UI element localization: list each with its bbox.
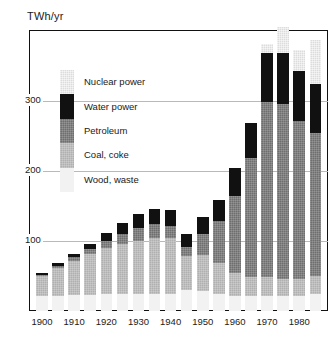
bar-1965 — [245, 123, 257, 311]
bar-segment-wood — [213, 294, 225, 311]
bar-segment-wood — [165, 294, 177, 311]
x-tick-label-1910: 1910 — [64, 316, 85, 327]
bar-segment-coal — [117, 244, 129, 294]
x-tick-label-1950: 1950 — [192, 316, 213, 327]
bar-segment-coal — [245, 277, 257, 295]
bar-segment-wood — [52, 296, 64, 311]
bar-segment-petroleum — [197, 234, 209, 255]
bar-1940 — [165, 210, 177, 311]
bar-segment-petroleum — [181, 247, 193, 257]
bar-segment-petroleum — [133, 228, 145, 241]
bar-segment-petroleum — [310, 133, 322, 277]
legend-swatch-nuclear — [60, 70, 74, 94]
bar-segment-water — [117, 223, 129, 234]
bar-segment-coal — [36, 276, 48, 296]
bar-1945 — [181, 234, 193, 311]
bar-segment-coal — [68, 261, 80, 295]
legend-swatch-petroleum — [60, 119, 74, 143]
bar-segment-water — [261, 53, 273, 102]
x-tick-label-1920: 1920 — [96, 316, 117, 327]
bar-segment-wood — [245, 296, 257, 311]
legend-label-water: Water power — [84, 101, 138, 112]
bar-segment-wood — [261, 296, 273, 311]
x-tick-label-1940: 1940 — [160, 316, 181, 327]
bar-segment-petroleum — [261, 102, 273, 277]
bar-1985 — [310, 40, 322, 311]
bar-segment-petroleum — [117, 234, 129, 244]
bar-segment-coal — [310, 276, 322, 294]
x-tick-label-1960: 1960 — [224, 316, 245, 327]
bar-segment-coal — [293, 279, 305, 296]
legend-swatch-water — [60, 94, 74, 118]
legend: Nuclear powerWater powerPetroleumCoal, c… — [60, 70, 210, 210]
bar-1915 — [84, 244, 96, 311]
bar-segment-wood — [181, 290, 193, 311]
bar-segment-nuclear — [261, 44, 273, 54]
bar-1935 — [149, 209, 161, 311]
bar-segment-nuclear — [293, 50, 305, 71]
bar-segment-wood — [101, 294, 113, 311]
bar-segment-water — [101, 233, 113, 241]
legend-swatch-wood — [60, 168, 74, 192]
bar-1950 — [197, 217, 209, 311]
energy-consumption-chart: TWh/yr 100200300 19001910192019301940195… — [0, 0, 335, 344]
bar-segment-coal — [277, 279, 289, 296]
bar-segment-coal — [101, 248, 113, 294]
bar-segment-wood — [229, 296, 241, 311]
bar-segment-wood — [149, 294, 161, 311]
bar-segment-coal — [261, 277, 273, 295]
x-tick-label-1980: 1980 — [289, 316, 310, 327]
bar-1970 — [261, 44, 273, 311]
bar-segment-nuclear — [277, 27, 289, 54]
bar-segment-water — [229, 168, 241, 196]
bar-segment-water — [149, 209, 161, 224]
bar-1955 — [213, 200, 225, 311]
bar-segment-wood — [197, 291, 209, 311]
bar-segment-coal — [149, 238, 161, 294]
bar-segment-petroleum — [229, 196, 241, 273]
bar-segment-coal — [165, 238, 177, 294]
bar-1905 — [52, 263, 64, 311]
bar-segment-water — [165, 210, 177, 225]
legend-label-petroleum: Petroleum — [84, 125, 127, 136]
bar-segment-water — [277, 53, 289, 103]
bar-segment-petroleum — [293, 121, 305, 279]
bar-segment-coal — [84, 254, 96, 295]
bar-segment-coal — [181, 256, 193, 290]
bar-segment-water — [197, 217, 209, 235]
bar-segment-wood — [277, 296, 289, 311]
bar-segment-coal — [213, 263, 225, 294]
bar-segment-petroleum — [245, 158, 257, 277]
legend-label-coal: Coal, coke — [84, 149, 129, 160]
bar-segment-petroleum — [165, 226, 177, 239]
bar-1960 — [229, 168, 241, 311]
bar-1910 — [68, 254, 80, 311]
bar-1980 — [293, 50, 305, 311]
bar-segment-wood — [133, 294, 145, 311]
bar-segment-coal — [229, 273, 241, 295]
x-tick-label-1970: 1970 — [256, 316, 277, 327]
bar-1900 — [36, 273, 48, 311]
bar-segment-nuclear — [310, 40, 322, 83]
bar-segment-petroleum — [277, 104, 289, 279]
bar-segment-wood — [117, 294, 129, 311]
legend-label-nuclear: Nuclear power — [84, 76, 145, 87]
bar-segment-water — [181, 234, 193, 247]
legend-label-wood: Wood, waste — [84, 174, 139, 185]
bar-segment-petroleum — [101, 241, 113, 248]
bar-segment-coal — [197, 255, 209, 291]
x-tick-label-1930: 1930 — [128, 316, 149, 327]
bar-segment-coal — [133, 241, 145, 294]
bar-segment-coal — [52, 268, 64, 296]
bar-segment-water — [310, 84, 322, 133]
bar-segment-water — [245, 123, 257, 158]
bar-segment-wood — [68, 295, 80, 311]
bar-1920 — [101, 233, 113, 311]
bar-segment-wood — [310, 294, 322, 311]
bar-segment-petroleum — [149, 224, 161, 238]
bar-1925 — [117, 223, 129, 311]
bar-segment-wood — [36, 296, 48, 311]
bar-segment-wood — [84, 295, 96, 311]
bar-segment-water — [293, 71, 305, 121]
bar-segment-wood — [293, 296, 305, 311]
